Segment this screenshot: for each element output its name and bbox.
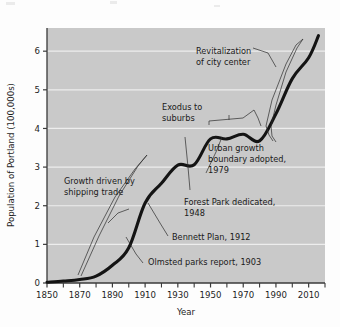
annotation-exodus-line1: Exodus to: [162, 102, 202, 112]
chart-svg: 0123456 18501870189019101930195019701990…: [0, 0, 340, 327]
x-axis-ticks: [47, 283, 325, 288]
y-tick-label-5: 5: [35, 85, 40, 95]
y-axis-tick-labels: 0123456: [35, 46, 40, 288]
y-tick-label-1: 1: [35, 239, 40, 249]
y-tick-label-4: 4: [35, 124, 40, 134]
x-tick-label-1930: 1930: [167, 290, 189, 300]
x-tick-label-1870: 1870: [69, 290, 91, 300]
annotation-olmsted-line1: Olmsted parks report, 1903: [148, 257, 261, 267]
x-axis-title: Year: [176, 307, 196, 317]
annotation-ugb-line1: Urban growth: [208, 143, 264, 153]
x-tick-label-1970: 1970: [232, 290, 254, 300]
annotation-shipping-line2: shipping trade: [64, 187, 123, 197]
x-tick-label-1910: 1910: [134, 290, 156, 300]
chart-figure: 0123456 18501870189019101930195019701990…: [0, 0, 340, 327]
y-tick-label-6: 6: [35, 46, 40, 56]
annotation-revitalization-line1: Revitalization: [196, 46, 251, 56]
annotation-revitalization-line2: of city center: [196, 57, 251, 67]
annotation-ugb-line2: boundary adopted,: [208, 154, 286, 164]
annotation-forestpark-line2: 1948: [184, 208, 205, 218]
y-tick-label-2: 2: [35, 201, 40, 211]
x-tick-label-1990: 1990: [265, 290, 287, 300]
annotation-bennett-line1: Bennett Plan, 1912: [172, 232, 251, 242]
y-tick-label-3: 3: [35, 162, 40, 172]
x-tick-label-1890: 1890: [101, 290, 123, 300]
x-axis-tick-labels: 185018701890191019301950197019902010: [36, 290, 320, 300]
annotation-shipping-line1: Growth driven by: [64, 176, 135, 186]
x-tick-label-2010: 2010: [298, 290, 320, 300]
x-tick-label-1850: 1850: [36, 290, 58, 300]
annotation-exodus-line2: suburbs: [162, 113, 195, 123]
y-axis-title: Population of Portland (100,000s): [6, 83, 16, 227]
annotation-forestpark-line1: Forest Park dedicated,: [184, 197, 275, 207]
y-tick-label-0: 0: [35, 278, 40, 288]
x-tick-label-1950: 1950: [200, 290, 222, 300]
annotation-ugb-line3: 1979: [208, 165, 229, 175]
